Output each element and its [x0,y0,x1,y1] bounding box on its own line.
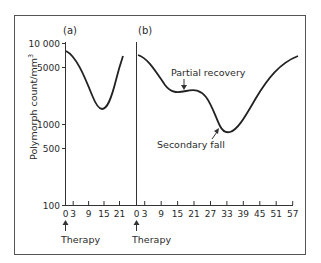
ytick-5000: 5000 [37,63,60,73]
x-tick-labels-b: 0 3 9 15 21 27 33 39 45 51 57 [134,209,299,219]
therapy-arrow-b [134,220,140,231]
svg-text:21: 21 [114,209,125,219]
therapy-arrow-a [63,220,69,231]
ytick-500: 500 [43,144,60,154]
secondary-fall-arrow [212,128,219,139]
ytick-100: 100 [43,201,60,211]
svg-text:9: 9 [86,209,92,219]
partial-recovery-arrow [181,79,187,90]
svg-text:33: 33 [221,209,232,219]
svg-text:51: 51 [270,209,281,219]
svg-text:9: 9 [158,209,164,219]
svg-text:45: 45 [254,209,265,219]
therapy-label-b: Therapy [131,234,171,245]
x-ticks-b [145,201,293,205]
svg-text:39: 39 [238,209,250,219]
callout-partial-recovery: Partial recovery [171,67,246,78]
svg-text:15: 15 [172,209,183,219]
curve-panel-a [66,51,123,109]
ytick-1000: 1000 [37,120,60,130]
panel-a-label: (a) [63,25,77,36]
panel-b-label: (b) [138,25,152,36]
svg-text:0: 0 [134,209,140,219]
x-ticks-a [73,201,119,205]
y-ticks [62,44,66,206]
svg-text:15: 15 [98,209,109,219]
svg-text:3: 3 [142,209,148,219]
chart: (a) (b) Polymorph count/mm3 10 000 5000 … [0,0,321,263]
x-tick-labels-a: 0 3 9 15 21 [63,209,126,219]
therapy-label-a: Therapy [60,234,100,245]
svg-text:27: 27 [205,209,216,219]
svg-text:0: 0 [63,209,69,219]
svg-text:57: 57 [287,209,298,219]
svg-text:21: 21 [188,209,199,219]
callout-secondary-fall: Secondary fall [157,139,225,150]
ytick-10000: 10 000 [29,39,61,49]
svg-text:3: 3 [70,209,76,219]
